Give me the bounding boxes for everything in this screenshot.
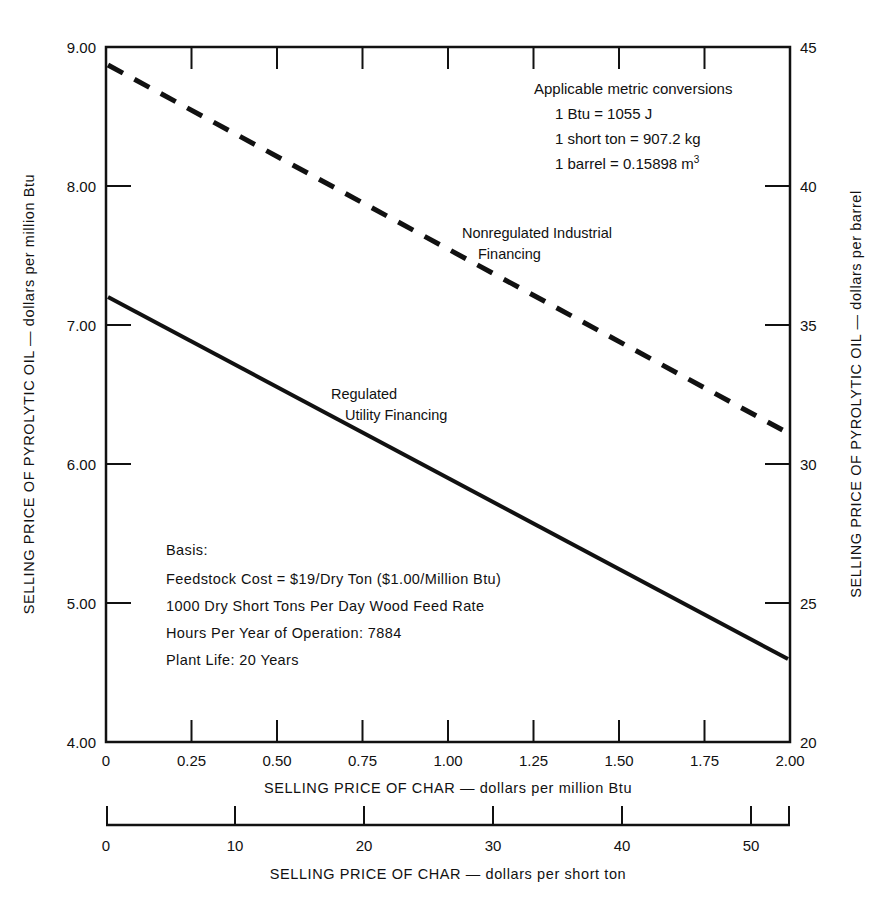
right-axis-tick-labels: 45 40 35 30 25 20: [800, 39, 817, 751]
right-tick-label: 40: [800, 178, 817, 195]
bottom-tick-label: 2.00: [775, 752, 804, 769]
right-tick-label: 25: [800, 595, 817, 612]
annotation-regulated-utility: Regulated Utility Financing: [331, 386, 447, 423]
left-axis-tick-labels: 9.00 8.00 7.00 6.00 5.00 4.00: [67, 39, 96, 751]
bottom-tick-label: 0.75: [348, 752, 377, 769]
bottom-axis-tick-labels: 0 0.25 0.50 0.75 1.00 1.25 1.50 1.75 2.0…: [102, 752, 805, 769]
left-tick-label: 9.00: [67, 39, 96, 56]
conversions-line: 1 short ton = 907.2 kg: [555, 130, 701, 147]
secondary-tick-label: 20: [356, 837, 373, 854]
bottom-tick-label: 1.75: [690, 752, 719, 769]
secondary-tick-label: 50: [743, 837, 760, 854]
left-tick-label: 6.00: [67, 456, 96, 473]
annotation-line-2: Financing: [478, 246, 541, 262]
right-axis-ticks: [765, 186, 790, 603]
secondary-tick-label: 40: [614, 837, 631, 854]
annotation-line-1: Regulated: [331, 386, 397, 402]
left-tick-label: 4.00: [67, 734, 96, 751]
bottom-tick-label: 0.25: [177, 752, 206, 769]
secondary-tick-label: 10: [227, 837, 244, 854]
bottom-tick-label: 1.25: [519, 752, 548, 769]
bottom-tick-label: 0.50: [262, 752, 291, 769]
annotation-line-2: Utility Financing: [345, 407, 447, 423]
conversions-barrel-text: 1 barrel = 0.15898 m: [555, 155, 694, 172]
bottom-tick-label: 0: [102, 752, 110, 769]
basis-line: Plant Life: 20 Years: [166, 652, 299, 668]
basis-line: Feedstock Cost = $19/Dry Ton ($1.00/Mill…: [166, 571, 501, 587]
bottom-tick-label: 1.50: [604, 752, 633, 769]
chart-svg: 9.00 8.00 7.00 6.00 5.00 4.00 45 40 35 3…: [0, 0, 888, 924]
annotation-nonregulated-industrial: Nonregulated Industrial Financing: [462, 225, 612, 262]
bottom-axis-ticks: [192, 720, 705, 742]
conversions-heading: Applicable metric conversions: [534, 80, 732, 97]
right-tick-label: 20: [800, 734, 817, 751]
left-tick-label: 5.00: [67, 595, 96, 612]
chart-figure: 9.00 8.00 7.00 6.00 5.00 4.00 45 40 35 3…: [0, 0, 888, 924]
top-axis-ticks: [192, 47, 705, 69]
left-axis-ticks: [106, 186, 131, 603]
conversions-barrel-line: 1 barrel = 0.15898 m3: [555, 154, 700, 172]
series-nonregulated-industrial: [108, 65, 788, 433]
right-tick-label: 30: [800, 456, 817, 473]
secondary-x-axis-title: SELLING PRICE OF CHAR — dollars per shor…: [270, 866, 627, 882]
basis-line: 1000 Dry Short Tons Per Day Wood Feed Ra…: [166, 598, 485, 614]
left-tick-label: 7.00: [67, 317, 96, 334]
y-axis-title-right: SELLING PRICE OF PYROLYTIC OIL — dollars…: [848, 190, 864, 598]
left-tick-label: 8.00: [67, 178, 96, 195]
x-axis-title: SELLING PRICE OF CHAR — dollars per mill…: [264, 780, 632, 796]
right-tick-label: 45: [800, 39, 817, 56]
y-axis-title-left: SELLING PRICE OF PYROLYTIC OIL — dollars…: [21, 174, 37, 615]
basis-heading: Basis:: [166, 542, 208, 558]
dashed-series-line: [108, 65, 788, 433]
basis-note: Basis: Feedstock Cost = $19/Dry Ton ($1.…: [166, 542, 501, 668]
metric-conversions-note: Applicable metric conversions 1 Btu = 10…: [534, 80, 732, 172]
right-tick-label: 35: [800, 317, 817, 334]
secondary-tick-label: 30: [485, 837, 502, 854]
conversions-line: 1 Btu = 1055 J: [555, 105, 652, 122]
secondary-x-axis: 0 10 20 30 40 50 SELLING PRICE OF CHAR —…: [102, 806, 790, 882]
annotation-line-1: Nonregulated Industrial: [462, 225, 612, 241]
basis-line: Hours Per Year of Operation: 7884: [166, 625, 402, 641]
bottom-tick-label: 1.00: [433, 752, 462, 769]
secondary-tick-label: 0: [102, 837, 110, 854]
conversions-barrel-exponent: 3: [694, 154, 700, 165]
